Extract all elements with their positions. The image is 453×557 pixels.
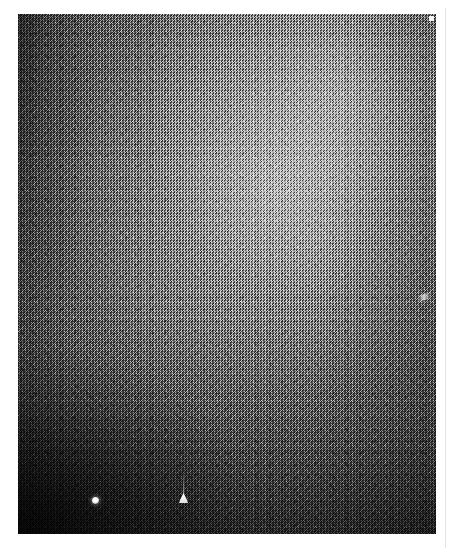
corner-fleck-artifact <box>429 16 434 21</box>
film-grain-streak-layer <box>18 14 436 534</box>
bright-dot-marker <box>92 497 99 504</box>
micrograph-plate-image <box>18 14 436 534</box>
right-margin-rule <box>445 8 446 548</box>
page-root <box>0 0 453 557</box>
bright-triangle-marker-tail <box>183 469 184 495</box>
